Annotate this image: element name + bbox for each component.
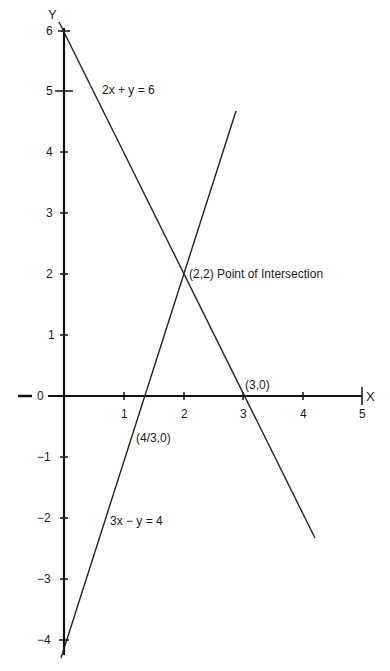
x-intercept-label-4-3-0: (4/3,0) [136,431,171,445]
x-axis [18,387,362,405]
y-tick-label: 4 [46,145,53,159]
y-tick-label: −3 [37,572,51,586]
line-3x-minus-y-eq-4 [61,111,236,658]
y-axis-label: Y [48,7,57,22]
graph-plot: Y X 6 5 4 3 2 1 0 −1 −2 −3 −4 1 2 3 4 5 … [0,0,390,671]
x-tick-label: 5 [359,407,366,421]
y-tick-label: −1 [37,450,51,464]
y-tick-label: 1 [48,328,55,342]
y-tick-label: 2 [46,267,53,281]
origin-label: 0 [37,389,44,403]
y-tick-labels: 6 5 4 3 2 1 0 −1 −2 −3 −4 [37,24,55,647]
intersection-label: (2,2) Point of Intersection [189,267,323,281]
x-tick-label: 2 [181,407,188,421]
y-tick-label: 6 [46,24,53,38]
equation-label-2: 3x − y = 4 [110,514,163,528]
y-tick-label: 5 [46,84,53,98]
x-axis-label: X [366,389,375,404]
y-tick-label: −2 [37,511,51,525]
x-tick-label: 4 [300,407,307,421]
x-tick-label: 3 [240,407,247,421]
y-tick-label: 3 [46,206,53,220]
x-tick-labels: 1 2 3 4 5 [121,407,366,421]
equation-label-1: 2x + y = 6 [102,83,155,97]
y-tick-label: −4 [37,633,51,647]
x-intercept-label-3-0: (3,0) [245,378,270,392]
x-tick-label: 1 [121,407,128,421]
